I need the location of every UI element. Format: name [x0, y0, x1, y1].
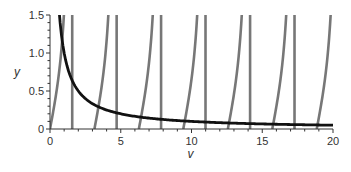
plot-area — [50, 6, 333, 129]
y-tick-label: 0.5 — [29, 85, 44, 97]
x-tick-label: 20 — [327, 135, 339, 147]
x-tick-label: 5 — [118, 135, 124, 147]
y-tick-label: 1.5 — [29, 9, 44, 21]
tan-branch-curve — [139, 13, 153, 129]
y-tick-label: 0 — [38, 123, 44, 135]
chart-plot: 0510152000.51.01.5vy — [0, 0, 351, 172]
tan-branch-curve — [272, 13, 286, 129]
x-tick-label: 10 — [185, 135, 197, 147]
tan-branch-curve — [183, 13, 197, 129]
tan-branch-curve — [228, 13, 242, 129]
x-tick-label: 15 — [256, 135, 268, 147]
x-axis-label: v — [188, 147, 195, 161]
x-tick-label: 0 — [47, 135, 53, 147]
y-tick-label: 1.0 — [29, 47, 44, 59]
tan-branch-curve — [94, 13, 108, 129]
tan-branch-curve — [317, 13, 331, 129]
y-axis-label: y — [13, 65, 21, 79]
